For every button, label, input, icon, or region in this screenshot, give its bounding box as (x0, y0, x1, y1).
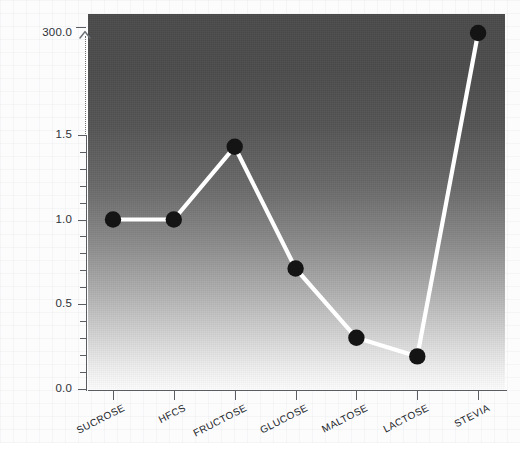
y-tick-major (78, 135, 86, 136)
x-tick-label: GLUCOSE (258, 403, 309, 436)
x-tick-label: HFCS (157, 403, 187, 425)
axis-break-dotted-line (85, 36, 86, 134)
x-tick (417, 391, 418, 400)
y-tick-label: 1.0 (16, 214, 72, 226)
x-tick (296, 391, 297, 400)
y-tick-label: 0.5 (16, 298, 72, 310)
y-tick-major (78, 389, 86, 390)
y-tick-minor (80, 203, 86, 204)
y-tick-minor (80, 355, 86, 356)
y-tick-minor (80, 372, 86, 373)
plot-area (88, 14, 505, 390)
x-tick (478, 391, 479, 400)
y-tick-minor (80, 152, 86, 153)
panel-texture (88, 14, 505, 390)
axis-break-arrow-icon (79, 30, 91, 39)
y-tick-minor (80, 169, 86, 170)
x-axis-line (88, 390, 507, 391)
y-tick-label: 0.0 (16, 383, 72, 395)
y-tick-major (78, 220, 86, 221)
x-tick (356, 391, 357, 400)
y-tick-minor (80, 186, 86, 187)
y-tick-minor (80, 253, 86, 254)
y-tick-major (78, 304, 86, 305)
x-tick-label: STEVIA (453, 403, 492, 429)
y-tick-minor (80, 287, 86, 288)
y-tick-label: 1.5 (16, 129, 72, 141)
x-tick-label: MALTOSE (321, 403, 370, 435)
y-tick-label: 300.0 (16, 27, 72, 39)
x-tick (113, 391, 114, 400)
y-tick-minor (80, 338, 86, 339)
x-tick-label: FRUCTOSE (192, 403, 249, 438)
y-tick-minor (80, 270, 86, 271)
line-chart: 0.00.51.01.5300.0 SUCROSEHFCSFRUCTOSEGLU… (0, 0, 520, 467)
x-tick (174, 391, 175, 400)
y-tick-minor (80, 321, 86, 322)
y-axis-line (86, 135, 87, 391)
x-tick-label: SUCROSE (75, 403, 126, 436)
x-tick-label: LACTOSE (382, 403, 431, 434)
x-tick (235, 391, 236, 400)
y-tick-300 (76, 27, 86, 28)
y-tick-minor (80, 236, 86, 237)
